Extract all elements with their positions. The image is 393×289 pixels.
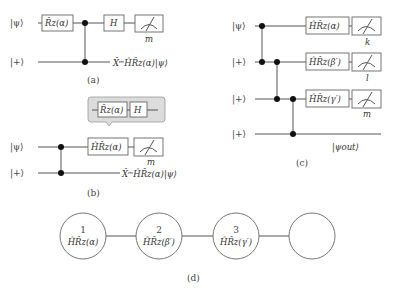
measure-label-l: l [366,73,369,83]
panel-c: |ψ⟩ |+⟩ |+⟩ |+⟩ ĤR̂z(α) ĤR̂z(β′) ĤR̂z(γ′… [232,17,381,168]
panel-b: R̂z(α) H |ψ⟩ |+⟩ ĤR̂z(α) m X̂ᵐĤR̂z(α)|ψ⟩… [10,97,177,198]
callout-balloon: R̂z(α) H [88,97,165,126]
measurement-meter-icon [134,138,163,156]
node-gate: ĤR̂z(α) [67,236,99,247]
output-state: |ψout⟩ [332,142,359,153]
measurement-meter-icon [135,15,163,32]
panel-d: 1 ĤR̂z(α) 2 ĤR̂z(β′) 3 ĤR̂z(γ′) (d) [60,213,335,283]
measurement-meter-icon [352,17,381,35]
input-psi: |ψ⟩ [10,142,24,153]
graph-node-2 [136,213,182,259]
caption-d: (d) [187,273,200,283]
h-gate-label: H [109,18,118,28]
measure-label: m [147,157,155,167]
graph-node-3 [213,213,259,259]
quantum-circuit-figure: |ψ⟩ |+⟩ R̂z(α) H m X̂ᵐĤR̂z(α)|ψ⟩ (a) R̂z… [0,0,393,289]
control-dot [290,96,296,102]
node-index: 1 [80,225,86,235]
control-dot [259,23,265,29]
panel-a: |ψ⟩ |+⟩ R̂z(α) H m X̂ᵐĤR̂z(α)|ψ⟩ (a) [10,15,168,85]
control-dot [58,144,64,150]
control-dot [82,20,88,26]
node-gate: ĤR̂z(γ′) [219,236,252,247]
caption-b: (b) [87,188,100,198]
graph-node-1 [60,213,106,259]
control-dot [290,131,296,137]
callout-h-label: H [133,105,142,115]
gate-label-beta: ĤR̂z(β′) [308,56,341,67]
measure-label-k: k [365,37,370,47]
output-state: X̂ᵐĤR̂z(α)|ψ⟩ [112,57,168,69]
graph-node-4 [289,213,335,259]
control-dot [82,59,88,65]
gate-label-gamma: ĤR̂z(γ′) [308,93,341,104]
input-plus: |+⟩ [232,129,246,140]
input-psi: |ψ⟩ [232,21,246,32]
output-state: X̂ᵐĤR̂z(α)|ψ⟩ [121,168,177,180]
input-psi: |ψ⟩ [10,18,24,29]
measure-label-m: m [363,109,371,119]
node-index: 3 [233,225,239,235]
input-plus: |+⟩ [232,57,246,68]
caption-c: (c) [296,158,308,168]
gate-label-alpha: ĤR̂z(α) [308,20,340,31]
caption-a: (a) [87,75,99,85]
measurement-meter-icon [352,53,381,71]
control-dot [259,59,265,65]
input-plus: |+⟩ [232,94,246,105]
node-index: 2 [156,225,162,235]
measure-label: m [145,34,153,44]
node-gate: ĤR̂z(β′) [142,236,175,247]
control-dot [58,170,64,176]
rz-gate-label: R̂z(α) [44,17,68,28]
input-plus: |+⟩ [10,168,24,179]
callout-rz-label: R̂z(α) [99,104,123,115]
measurement-meter-icon [352,90,381,108]
hrz-gate-label: ĤR̂z(α) [90,141,122,152]
control-dot [274,59,280,65]
input-plus: |+⟩ [10,57,24,68]
control-dot [274,96,280,102]
